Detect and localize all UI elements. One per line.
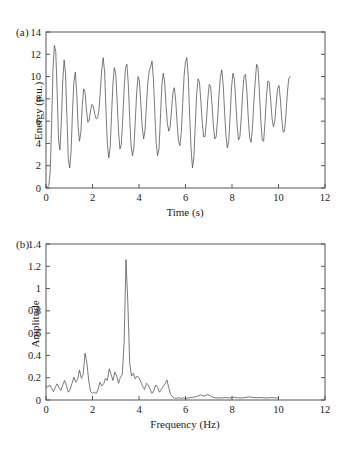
data-series-line bbox=[46, 260, 279, 399]
x-tick-label: 2 bbox=[90, 192, 95, 203]
x-tick-label: 4 bbox=[136, 404, 142, 415]
y-tick-label: 1.4 bbox=[28, 239, 42, 250]
x-tick-label: 0 bbox=[43, 192, 48, 203]
x-tick-label: 6 bbox=[183, 192, 188, 203]
x-tick-label: 12 bbox=[320, 404, 331, 415]
data-series-line bbox=[46, 45, 290, 187]
x-tick-label: 12 bbox=[320, 192, 331, 203]
y-tick-label: 14 bbox=[31, 27, 42, 38]
panel-b-x-axis-title: Frequency (Hz) bbox=[45, 418, 325, 430]
y-tick-label: 0 bbox=[36, 395, 41, 406]
x-tick-label: 10 bbox=[273, 404, 284, 415]
panel-b-y-axis-title: Amplitude bbox=[29, 264, 41, 384]
x-tick-label: 2 bbox=[90, 404, 95, 415]
x-tick-label: 4 bbox=[136, 192, 142, 203]
panel-a-plot: 02468101202468101214 bbox=[0, 0, 348, 230]
x-tick-label: 8 bbox=[229, 404, 234, 415]
x-tick-label: 0 bbox=[43, 404, 48, 415]
x-tick-label: 8 bbox=[229, 192, 234, 203]
x-tick-label: 6 bbox=[183, 404, 188, 415]
figure-container: (a) 02468101202468101214 Energy (p.u.) T… bbox=[0, 0, 348, 460]
y-tick-label: 0 bbox=[36, 183, 41, 194]
panel-a: (a) 02468101202468101214 Energy (p.u.) T… bbox=[0, 0, 348, 230]
x-tick-label: 10 bbox=[273, 192, 284, 203]
panel-a-x-axis-title: Time (s) bbox=[45, 206, 325, 218]
panel-b: (b) 02468101200.20.40.60.811.21.4 Amplit… bbox=[0, 230, 348, 460]
panel-a-y-axis-title: Energy (p.u.) bbox=[32, 51, 44, 171]
